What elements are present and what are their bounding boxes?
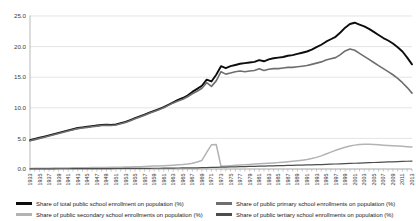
series-line-primary bbox=[30, 49, 412, 141]
y-axis-tick-label: 5.0 bbox=[17, 135, 26, 142]
x-axis-tick-label: 1935 bbox=[37, 174, 43, 186]
x-axis-tick-label: 1977 bbox=[237, 174, 243, 186]
legend-label-total: Share of total public school enrollment … bbox=[36, 200, 184, 208]
legend-label-tertiary: Share of public tertiary school enrollme… bbox=[236, 211, 394, 219]
x-axis-tick-label: 1953 bbox=[123, 174, 129, 186]
x-axis-tick-label: 2005 bbox=[371, 174, 377, 186]
x-axis-tick-label: 1999 bbox=[342, 174, 348, 186]
legend-item-tertiary: Share of public tertiary school enrollme… bbox=[216, 209, 416, 220]
x-axis-tick-label: 1959 bbox=[151, 174, 157, 186]
x-axis-tick-label: 1969 bbox=[199, 174, 205, 186]
x-axis-tick-label: 1957 bbox=[142, 174, 148, 186]
x-axis-tick-label: 1989 bbox=[294, 174, 300, 186]
x-axis-tick-label: 2007 bbox=[380, 174, 386, 186]
y-axis-tick-label: 10.0 bbox=[14, 104, 27, 111]
x-axis-tick-label: 2011 bbox=[399, 174, 405, 186]
y-axis-tick-label: 15.0 bbox=[14, 73, 27, 80]
x-axis-tick-label: 1973 bbox=[218, 174, 224, 186]
x-axis-tick-label: 1997 bbox=[333, 174, 339, 186]
x-axis-tick-label: 1955 bbox=[132, 174, 138, 186]
x-axis-tick-label: 1983 bbox=[266, 174, 272, 186]
x-axis-tick-label: 1971 bbox=[208, 174, 214, 186]
chart-legend: Share of total public school enrollment … bbox=[0, 198, 416, 220]
x-axis-tick-label: 1949 bbox=[103, 174, 109, 186]
x-axis-tick-label: 1937 bbox=[46, 174, 52, 186]
x-axis-tick-label: 1991 bbox=[304, 174, 310, 186]
legend-swatch-primary bbox=[216, 202, 232, 205]
chart-container: 0.05.010.015.020.025.0193319351937193919… bbox=[0, 0, 416, 221]
x-axis-tick-label: 1995 bbox=[323, 174, 329, 186]
y-axis-tick-label: 20.0 bbox=[14, 43, 27, 50]
legend-label-secondary: Share of public secondary school enrollm… bbox=[36, 211, 203, 219]
x-axis-tick-label: 1993 bbox=[314, 174, 320, 186]
x-axis-tick-label: 1967 bbox=[189, 174, 195, 186]
x-axis-tick-label: 2009 bbox=[390, 174, 396, 186]
x-axis-tick-label: 1945 bbox=[84, 174, 90, 186]
legend-label-primary: Share of public primary school enrollmen… bbox=[236, 200, 395, 208]
line-chart-plot: 0.05.010.015.020.025.0193319351937193919… bbox=[0, 0, 416, 192]
legend-swatch-secondary bbox=[16, 213, 32, 216]
legend-item-secondary: Share of public secondary school enrollm… bbox=[16, 209, 216, 220]
y-axis-tick-label: 25.0 bbox=[14, 12, 27, 19]
x-axis-tick-label: 1981 bbox=[256, 174, 262, 186]
x-axis-tick-label: 1963 bbox=[170, 174, 176, 186]
x-axis-tick-label: 1985 bbox=[275, 174, 281, 186]
x-axis-tick-label: 1965 bbox=[180, 174, 186, 186]
x-axis-tick-label: 1987 bbox=[285, 174, 291, 186]
legend-item-total: Share of total public school enrollment … bbox=[16, 198, 216, 209]
x-axis-tick-label: 1943 bbox=[75, 174, 81, 186]
x-axis-tick-label: 2003 bbox=[361, 174, 367, 186]
x-axis-tick-label: 1951 bbox=[113, 174, 119, 186]
legend-swatch-tertiary bbox=[216, 213, 232, 216]
series-line-secondary bbox=[30, 144, 412, 168]
legend-swatch-total bbox=[16, 202, 32, 205]
x-axis-tick-label: 1947 bbox=[94, 174, 100, 186]
x-axis-tick-label: 1941 bbox=[65, 174, 71, 186]
x-axis-tick-label: 1979 bbox=[247, 174, 253, 186]
series-line-total bbox=[30, 23, 412, 141]
x-axis-tick-label: 1975 bbox=[228, 174, 234, 186]
x-axis-tick-label: 1939 bbox=[56, 174, 62, 186]
x-axis-tick-label: 2013 bbox=[409, 174, 415, 186]
legend-item-primary: Share of public primary school enrollmen… bbox=[216, 198, 416, 209]
x-axis-tick-label: 1933 bbox=[27, 174, 33, 186]
y-axis-tick-label: 0.0 bbox=[17, 165, 26, 172]
x-axis-tick-label: 2001 bbox=[352, 174, 358, 186]
x-axis-tick-label: 1961 bbox=[161, 174, 167, 186]
